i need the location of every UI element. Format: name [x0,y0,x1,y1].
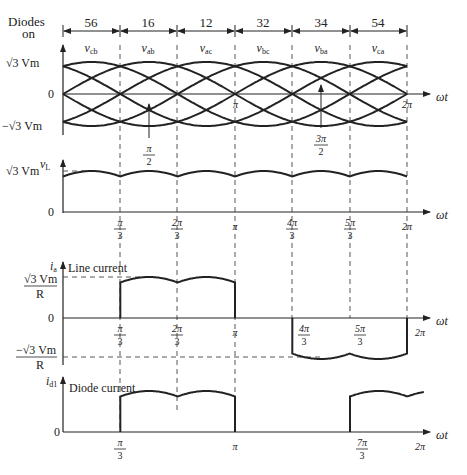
x-tick-label: 2π [402,221,413,232]
interval-label: 12 [200,15,213,30]
y-label-zero: 0 [48,205,54,219]
x-tick-numerator: 7π [357,437,368,448]
x-tick-label: 2π [415,441,426,452]
annotation-pi-over-2-den: 2 [147,156,152,167]
x-tick-numerator: π [117,437,123,448]
x-tick-numerator: 5π [355,323,366,334]
plot-line-voltages: √3 Vm 0 −√3 Vm π 2π ωt π 2 3π 2 [2,45,448,167]
interval-label: 32 [257,15,270,30]
voltage-label-vbc: vbc [257,41,270,56]
x-tick-labels: π3π7π32π [114,437,426,461]
y-label-top: √3 Vm [6,56,40,70]
plot-output-voltage: vL √3 Vm 0 ωt π32π3π4π35π32π [6,157,448,241]
plot-line-current: ia Line current √3 Vm R 0 −√3 Vm R ωt π3… [16,259,448,372]
diode-current-title: Diode current [69,381,136,395]
x-label-pi: π [233,99,239,110]
x-tick-label: π [232,441,238,452]
x-tick-label: 2π [415,327,426,338]
line-current-title: Line current [68,261,128,275]
x-tick-denominator: 3 [360,450,365,461]
y-axis-label-vL: vL [40,157,50,172]
x-tick-numerator: 2π [172,323,183,334]
voltage-label-vca: vca [372,41,385,56]
annotation-3pi-over-2-num: 3π [315,133,327,144]
voltage-label-vcb: vcb [85,41,98,56]
y-label-zero: 0 [48,87,54,101]
x-tick-numerator: π [117,323,123,334]
y-label-top: √3 Vm [6,164,40,178]
interval-label: 16 [142,15,156,30]
x-tick-denominator: 3 [118,450,123,461]
x-tick-numerator: 4π [287,217,298,228]
y-label-bot-num: −√3 Vm [16,343,57,357]
x-tick-label: π [232,327,238,338]
omega-t-label: ωt [436,90,448,104]
annotation-3pi-over-2-den: 2 [319,146,324,157]
x-tick-numerator: 4π [299,323,310,334]
x-tick-denominator: 3 [290,230,295,241]
y-label-top-num: √3 Vm [24,272,58,286]
x-tick-denominator: 3 [175,336,180,347]
y-axis-label-id1: id1 [46,374,57,389]
x-tick-denominator: 3 [348,230,353,241]
diodes-label-on: on [22,26,36,41]
plot-diode-current: id1 Diode current 0 ωt π3π7π32π [46,374,448,461]
x-tick-label: π [232,221,238,232]
x-tick-denominator: 3 [118,336,123,347]
omega-t-label: ωt [436,428,448,442]
x-tick-labels: π32π3π4π35π32π [114,217,413,241]
interval-label: 54 [372,15,386,30]
voltage-label-vac: vac [200,41,213,56]
x-tick-labels: π32π3π4π35π32π [114,323,426,347]
annotation-pi-over-2-num: π [146,143,152,154]
voltage-label-vab: vab [142,41,155,56]
x-tick-denominator: 3 [175,230,180,241]
x-label-2pi: 2π [402,99,413,110]
x-tick-denominator: 3 [302,336,307,347]
y-label-bot-den: R [36,358,44,372]
diode-intervals: Diodes on 56 16 12 32 34 54 [8,14,407,41]
y-label-zero: 0 [48,311,54,325]
x-tick-numerator: π [117,217,123,228]
omega-t-label: ωt [436,314,448,328]
waveform-diagram: Diodes on 56 16 12 32 34 54 vcb vab vac … [0,0,467,475]
x-tick-denominator: 3 [118,230,123,241]
y-label-top-den: R [36,287,44,301]
voltage-label-vba: vba [315,41,328,56]
x-tick-numerator: 2π [172,217,183,228]
x-tick-numerator: 5π [345,217,356,228]
y-label-bottom: −√3 Vm [2,119,43,133]
interval-label: 56 [85,15,99,30]
y-label-zero: 0 [54,425,60,439]
interval-label: 34 [315,15,329,30]
x-tick-denominator: 3 [358,336,363,347]
omega-t-label: ωt [436,208,448,222]
